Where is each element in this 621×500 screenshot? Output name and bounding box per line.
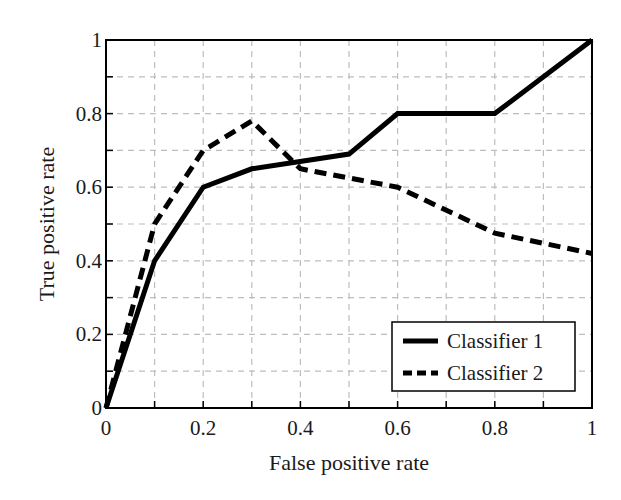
y-tick-label: 1 [92,28,103,52]
legend-label-classifier-2: Classifier 2 [447,361,543,385]
legend: Classifier 1 Classifier 2 [392,322,575,391]
y-tick-label: 0.6 [76,175,102,199]
x-tick-label: 0.8 [482,416,508,440]
y-tick-label: 0.8 [76,102,102,126]
x-tick-label: 0 [101,416,112,440]
y-tick-label: 0.2 [76,322,102,346]
x-axis-label: False positive rate [269,450,429,475]
x-tick-label: 0.2 [190,416,216,440]
x-tick-label: 1 [587,416,598,440]
y-tick-label: 0 [92,396,103,420]
roc-chart: 00.20.40.60.8100.20.40.60.81 False posit… [0,0,621,500]
x-tick-label: 0.4 [287,416,314,440]
y-axis-label: True positive rate [34,147,59,301]
legend-label-classifier-1: Classifier 1 [447,329,543,353]
y-tick-label: 0.4 [76,249,103,273]
x-tick-label: 0.6 [384,416,410,440]
